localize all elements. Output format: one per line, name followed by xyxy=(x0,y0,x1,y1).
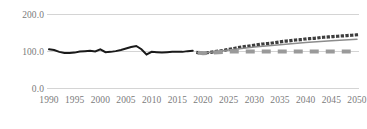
y-tick-label: 0.0 xyxy=(32,84,44,94)
plot-area xyxy=(47,0,359,129)
y-axis: 0.0100.0200.0 xyxy=(0,0,44,129)
y-tick-label: 100.0 xyxy=(22,47,44,57)
y-tick-label: 200.0 xyxy=(22,10,44,20)
series-historical xyxy=(49,46,193,55)
